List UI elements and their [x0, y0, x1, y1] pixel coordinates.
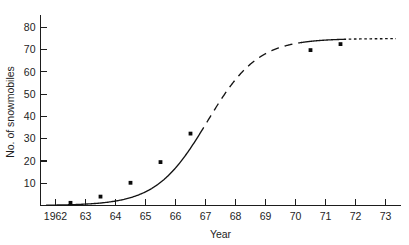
data-point-marker	[189, 132, 193, 136]
curve-segment-dashed	[200, 43, 302, 135]
curve-segment-dotted	[344, 39, 397, 40]
data-point-marker	[129, 181, 133, 185]
data-point-marker	[339, 42, 343, 46]
y-tick-label: 80	[24, 21, 36, 33]
x-tick-label: 70	[290, 210, 302, 222]
y-tick-label: 60	[24, 66, 36, 78]
data-point-marker	[309, 48, 313, 52]
x-tick-label: 73	[380, 210, 392, 222]
x-tick-label: 63	[80, 210, 92, 222]
x-tick-label: 65	[140, 210, 152, 222]
plot-axes	[41, 15, 401, 206]
line-chart: 1020304050607080 19626364656667686970717…	[0, 0, 409, 245]
y-axis-title: No. of snowmobiles	[4, 66, 16, 158]
data-point-marker	[69, 201, 73, 205]
y-tick-label: 20	[24, 155, 36, 167]
x-tick-label: 69	[260, 210, 272, 222]
x-tick-label: 71	[320, 210, 332, 222]
data-markers	[69, 42, 343, 205]
x-tick-label: 1962	[44, 210, 68, 222]
x-axis-title: Year	[210, 228, 232, 240]
y-tick-label: 10	[24, 177, 36, 189]
curve-segment-solid	[47, 134, 200, 205]
data-curve	[47, 39, 397, 206]
chart-container: 1020304050607080 19626364656667686970717…	[0, 0, 409, 245]
x-tick-label: 66	[170, 210, 182, 222]
x-tick-label: 67	[200, 210, 212, 222]
x-tick-label: 72	[350, 210, 362, 222]
x-tick-label: 64	[110, 210, 122, 222]
curve-segment-solid	[302, 39, 344, 42]
data-point-marker	[99, 195, 103, 199]
y-tick-label: 40	[24, 110, 36, 122]
y-tick-label: 30	[24, 132, 36, 144]
y-tick-label: 50	[24, 88, 36, 100]
data-point-marker	[159, 160, 163, 164]
y-axis-ticks	[41, 27, 47, 183]
x-axis-tick-labels: 19626364656667686970717273	[44, 210, 392, 222]
y-axis-tick-labels: 1020304050607080	[24, 21, 36, 189]
x-tick-label: 68	[230, 210, 242, 222]
y-tick-label: 70	[24, 43, 36, 55]
